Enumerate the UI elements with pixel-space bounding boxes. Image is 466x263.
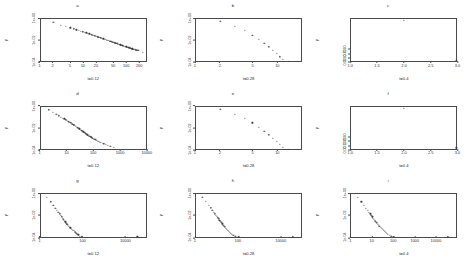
panel-letter-g: g [0, 179, 155, 183]
y-tick-label-b-2: 1e+00 [189, 13, 193, 23]
data-point [403, 107, 404, 108]
figure-panel-grid: ap1e-041e-021e+00125102050100200t=0.12bp… [0, 0, 466, 263]
x-tick-i-0: 1 [349, 236, 351, 243]
x-tick-label-e-2: 5 [251, 150, 253, 155]
y-tick-label-e-0: 1e-04 [189, 145, 193, 154]
data-point [208, 204, 209, 205]
x-tick-label-d-1: 10 [64, 150, 68, 155]
scatter-points-a [41, 19, 146, 61]
data-point [244, 117, 245, 118]
y-tick-label-i-0: 1e-04 [344, 233, 348, 242]
y-tick-label-a-0: 1e-04 [33, 58, 37, 67]
x-axis-title-d: t=0.12 [40, 164, 147, 168]
y-tick-label-a-2: 1e+00 [33, 13, 37, 23]
data-point [272, 138, 273, 139]
data-point [66, 26, 67, 27]
y-axis-title-d: p [4, 106, 8, 150]
x-tick-label-d-0: 1 [39, 150, 41, 155]
x-tick-f-0: 1.0 [348, 149, 353, 156]
data-point [53, 21, 54, 22]
x-tick-h-2: 10000 [275, 236, 286, 243]
data-point [363, 205, 364, 206]
panel-letter-f: f [311, 92, 466, 96]
x-tick-label-a-2: 5 [69, 63, 71, 68]
y-axis-ticks-a: 1e-041e-021e+00 [18, 18, 40, 62]
data-point [283, 146, 284, 147]
y-axis-title-e: p [159, 106, 163, 150]
data-point [234, 113, 235, 114]
scatter-points-f [351, 107, 456, 149]
y-tick-label-g-2: 1e+00 [33, 188, 37, 198]
x-tick-i-3: 1000 [410, 236, 419, 243]
x-tick-i-4: 10000 [431, 236, 442, 243]
y-axis-ticks-h: 1e-041e-021e+00 [173, 193, 195, 237]
data-point [403, 20, 404, 21]
panel-i: ip1e-041e-021e+00110100100010000t=0.4 [311, 175, 466, 263]
data-point [283, 58, 284, 59]
x-tick-d-0: 1 [39, 149, 41, 156]
x-tick-g-2: 10000 [120, 236, 131, 243]
data-point [361, 201, 362, 202]
x-tick-f-3: 2.5 [428, 149, 433, 156]
panel-letter-d: d [0, 92, 155, 96]
data-point [56, 113, 57, 114]
data-point [252, 34, 253, 35]
y-axis-title-c: p [315, 18, 319, 62]
panel-c: cp0.000.100.200.301.01.52.02.53.0t=0.4 [311, 0, 466, 88]
x-tick-label-i-1: 10 [370, 238, 374, 243]
y-tick-label-g-0: 1e-04 [33, 233, 37, 242]
x-tick-label-a-0: 1 [39, 63, 41, 68]
scatter-points-g [41, 194, 146, 236]
y-tick-label-c-3: 0.30 [344, 45, 348, 52]
x-tick-label-a-7: 200 [136, 63, 143, 68]
x-axis-ticks-f: 1.01.52.02.53.0 [350, 149, 457, 156]
x-tick-label-b-2: 5 [251, 63, 253, 68]
x-tick-label-h-2: 10000 [275, 238, 286, 243]
x-tick-h-0: 1 [194, 236, 196, 243]
y-tick-label-d-2: 1e+00 [33, 101, 37, 111]
plot-area-b [195, 18, 302, 62]
x-tick-b-1: 2 [219, 61, 221, 68]
panel-g: gp1e-041e-021e+00110010000t=0.12 [0, 175, 155, 263]
x-tick-e-2: 5 [251, 149, 253, 156]
x-axis-ticks-e: 12510 [195, 149, 302, 156]
plot-area-g [40, 193, 147, 237]
panel-b: bp1e-041e-021e+0012510t=0.28 [155, 0, 310, 88]
x-tick-label-i-4: 10000 [431, 238, 442, 243]
data-point [60, 24, 61, 25]
y-tick-label-d-1: 1e-02 [33, 123, 37, 132]
y-axis-title-text-a: p [4, 39, 8, 41]
y-axis-title-i: p [315, 193, 319, 237]
x-tick-label-b-1: 2 [219, 63, 221, 68]
y-tick-label-e-1: 1e-02 [189, 123, 193, 132]
data-point [53, 204, 54, 205]
data-point [143, 51, 144, 52]
x-axis-ticks-d: 110100100010000 [40, 149, 147, 156]
y-tick-label-i-1: 1e-02 [344, 211, 348, 220]
panel-letter-e: e [155, 92, 310, 96]
data-point [258, 38, 259, 39]
x-tick-d-4: 10000 [141, 149, 152, 156]
panel-letter-c: c [311, 4, 466, 8]
panel-d: dp1e-041e-021e+00110100100010000t=0.12 [0, 88, 155, 176]
x-tick-e-3: 10 [275, 149, 279, 156]
y-axis-title-text-h: p [159, 214, 163, 216]
x-tick-label-i-0: 1 [349, 238, 351, 243]
y-axis-title-text-b: p [159, 39, 163, 41]
x-tick-label-c-4: 3.0 [455, 63, 460, 68]
data-point [264, 130, 265, 131]
data-point [73, 28, 74, 29]
x-tick-i-1: 10 [370, 236, 374, 243]
data-point [53, 112, 54, 113]
x-tick-f-2: 2.0 [401, 149, 406, 156]
x-tick-label-d-2: 100 [90, 150, 97, 155]
plot-area-e [195, 106, 302, 150]
data-point [110, 145, 111, 146]
x-tick-label-i-2: 100 [390, 238, 397, 243]
plot-area-f [350, 106, 457, 150]
y-axis-ticks-d: 1e-041e-021e+00 [18, 106, 40, 150]
scatter-points-i [351, 194, 456, 236]
x-tick-label-c-3: 2.5 [428, 63, 433, 68]
x-tick-c-0: 1.0 [348, 61, 353, 68]
x-tick-label-a-5: 50 [111, 63, 115, 68]
